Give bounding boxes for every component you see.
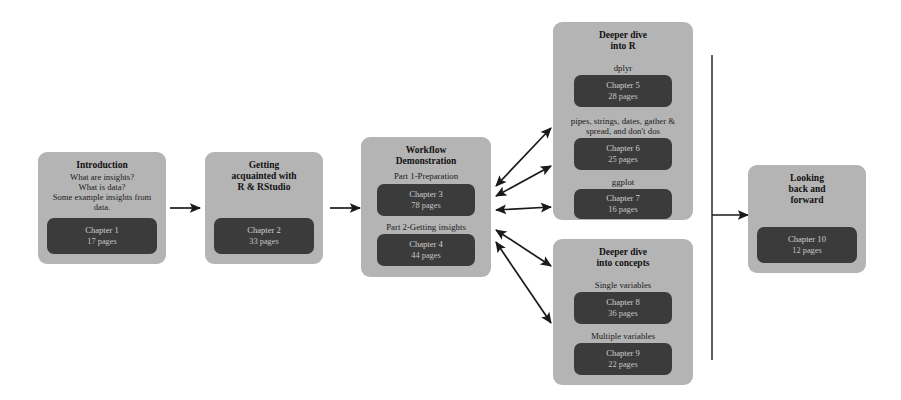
chapter-6-pages: 25 pages (608, 154, 638, 165)
node-looking-back-and-forward[interactable]: Looking back and forward Chapter 10 12 p… (748, 165, 866, 273)
chapter-card-8[interactable]: Chapter 8 36 pages (574, 292, 672, 324)
looking-back-title-line-3: forward (748, 195, 866, 206)
getting-acquainted-title: Getting acquainted with R & RStudio (205, 152, 323, 193)
chapter-card-6[interactable]: Chapter 6 25 pages (574, 138, 672, 170)
topic-ggplot-label: ggplot (553, 177, 693, 187)
looking-back-title-line-2: back and (748, 184, 866, 195)
chapter-3-pages: 78 pages (411, 200, 441, 211)
diagram-canvas: Introduction What are insights? What is … (0, 0, 901, 400)
chapter-2-name: Chapter 2 (247, 225, 281, 236)
chapter-9-pages: 22 pages (608, 359, 638, 370)
node-deeper-dive-into-r[interactable]: Deeper dive into R dplyr Chapter 5 28 pa… (553, 22, 693, 220)
introduction-title: Introduction (38, 152, 166, 171)
arrow-workflow-to-dplyr (496, 128, 551, 186)
chapter-4-name: Chapter 4 (409, 239, 443, 250)
workflow-part-2-label: Part 2-Getting insights (361, 222, 491, 232)
topic-pipes-label-line-2: spread, and don't dos (551, 126, 695, 136)
introduction-line-1: What are insights? (41, 172, 163, 182)
workflow-part-1-label: Part 1-Preparation (361, 171, 491, 181)
chapter-3-name: Chapter 3 (409, 189, 443, 200)
chapter-card-4[interactable]: Chapter 4 44 pages (377, 234, 475, 266)
chapter-7-name: Chapter 7 (606, 193, 640, 204)
workflow-title-line-2: Demonstration (361, 156, 491, 167)
introduction-line-3: Some example insights from (41, 192, 163, 202)
chapter-6-name: Chapter 6 (606, 143, 640, 154)
introduction-line-2: What is data? (41, 182, 163, 192)
chapter-card-2[interactable]: Chapter 2 33 pages (214, 218, 314, 254)
node-getting-acquainted[interactable]: Getting acquainted with R & RStudio Chap… (205, 152, 323, 264)
deeper-dive-concepts-title: Deeper dive into concepts (553, 239, 693, 269)
node-deeper-dive-into-concepts[interactable]: Deeper dive into concepts Single variabl… (553, 239, 693, 385)
topic-dplyr-label: dplyr (553, 63, 693, 73)
deeper-dive-r-title-line-1: Deeper dive (553, 30, 693, 41)
chapter-card-5[interactable]: Chapter 5 28 pages (574, 75, 672, 107)
deeper-dive-concepts-title-line-1: Deeper dive (553, 247, 693, 258)
chapter-card-7[interactable]: Chapter 7 16 pages (574, 189, 672, 219)
arrow-workflow-to-single-variables (496, 230, 551, 266)
getting-acquainted-title-line-2: acquainted with (205, 171, 323, 182)
chapter-10-pages: 12 pages (792, 245, 822, 256)
node-introduction[interactable]: Introduction What are insights? What is … (38, 152, 166, 264)
arrow-workflow-to-ggplot (496, 207, 551, 210)
workflow-title: Workflow Demonstration (361, 137, 491, 167)
chapter-2-pages: 33 pages (249, 236, 279, 247)
topic-pipes-label: pipes, strings, dates, gather & spread, … (551, 116, 695, 136)
chapter-8-name: Chapter 8 (606, 297, 640, 308)
introduction-body: What are insights? What is data? Some ex… (38, 171, 166, 212)
chapter-5-pages: 28 pages (608, 91, 638, 102)
topic-pipes-label-line-1: pipes, strings, dates, gather & (551, 116, 695, 126)
chapter-5-name: Chapter 5 (606, 80, 640, 91)
node-workflow-demonstration[interactable]: Workflow Demonstration Part 1-Preparatio… (361, 137, 491, 277)
chapter-card-3[interactable]: Chapter 3 78 pages (377, 184, 475, 216)
chapter-9-name: Chapter 9 (606, 348, 640, 359)
chapter-10-name: Chapter 10 (788, 234, 826, 245)
chapter-card-9[interactable]: Chapter 9 22 pages (574, 343, 672, 375)
topic-single-variables-label: Single variables (553, 280, 693, 290)
topic-multiple-variables-label: Multiple variables (553, 331, 693, 341)
chapter-card-1[interactable]: Chapter 1 17 pages (47, 218, 157, 254)
deeper-dive-r-title-line-2: into R (553, 41, 693, 52)
chapter-7-pages: 16 pages (608, 204, 638, 215)
chapter-8-pages: 36 pages (608, 308, 638, 319)
deeper-dive-concepts-title-line-2: into concepts (553, 258, 693, 269)
looking-back-title-line-1: Looking (748, 173, 866, 184)
arrow-workflow-to-multiple-variables (496, 242, 551, 323)
chapter-card-10[interactable]: Chapter 10 12 pages (757, 227, 857, 263)
chapter-1-pages: 17 pages (87, 236, 117, 247)
looking-back-title: Looking back and forward (748, 165, 866, 206)
getting-acquainted-title-line-1: Getting (205, 160, 323, 171)
workflow-title-line-1: Workflow (361, 145, 491, 156)
chapter-1-name: Chapter 1 (85, 225, 119, 236)
arrow-workflow-to-pipes (496, 166, 551, 196)
deeper-dive-r-title: Deeper dive into R (553, 22, 693, 52)
introduction-line-4: data. (41, 202, 163, 212)
chapter-4-pages: 44 pages (411, 250, 441, 261)
getting-acquainted-title-line-3: R & RStudio (205, 182, 323, 193)
